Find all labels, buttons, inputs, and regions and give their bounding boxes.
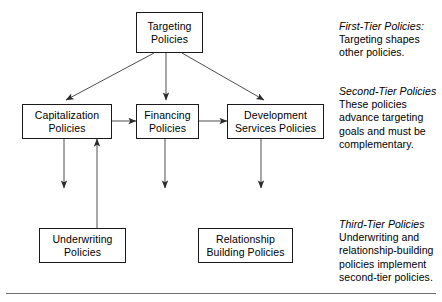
node-underwriting-policies[interactable]: Underwriting Policies: [39, 228, 126, 263]
note-second-tier-heading: Second-Tier Policies: [339, 85, 436, 98]
node-financing-policies[interactable]: Financing Policies: [136, 104, 199, 139]
note-first-tier-heading-text: First-Tier Policies: [339, 20, 421, 32]
node-capitalization-policies-line2: Policies: [49, 122, 86, 135]
note-third-tier-line2: relationship-building: [339, 244, 433, 257]
note-second-tier-line3: goals and must be: [339, 125, 436, 138]
node-development-services-policies-line1: Development: [244, 109, 307, 122]
note-third-tier-line3: policies implement: [339, 258, 433, 271]
note-second-tier-line1: These policies: [339, 98, 436, 111]
node-underwriting-policies-line1: Underwriting: [52, 233, 112, 246]
note-third-tier: Third-Tier Policies Underwriting and rel…: [339, 218, 433, 284]
note-first-tier: First-Tier Policies: Targeting shapes ot…: [339, 20, 424, 60]
edge-targeting-to-development-services: [182, 53, 264, 100]
note-third-tier-line4: second-tier policies.: [339, 271, 433, 284]
note-first-tier-heading: First-Tier Policies:: [339, 20, 424, 33]
node-relationship-building-policies[interactable]: Relationship Building Policies: [198, 228, 293, 263]
footer-divider: [6, 293, 436, 294]
node-targeting-policies[interactable]: Targeting Policies: [136, 12, 203, 53]
node-capitalization-policies-line1: Capitalization: [35, 109, 99, 122]
edge-targeting-to-capitalization: [66, 53, 154, 100]
diagram-canvas: Targeting Policies Capitalization Polici…: [0, 0, 442, 302]
note-third-tier-heading: Third-Tier Policies: [339, 218, 433, 231]
node-underwriting-policies-line2: Policies: [64, 246, 101, 259]
node-targeting-policies-line2: Policies: [151, 33, 188, 46]
note-first-tier-line2: other policies.: [339, 46, 424, 59]
node-financing-policies-line1: Financing: [144, 109, 190, 122]
note-first-tier-line1: Targeting shapes: [339, 33, 424, 46]
note-first-tier-heading-suffix: :: [421, 20, 424, 32]
note-third-tier-line1: Underwriting and: [339, 231, 433, 244]
node-targeting-policies-line1: Targeting: [147, 20, 191, 33]
node-relationship-building-policies-line2: Building Policies: [206, 246, 284, 259]
node-development-services-policies-line2: Services Policies: [235, 122, 316, 135]
note-second-tier-line4: complementary.: [339, 138, 436, 151]
node-relationship-building-policies-line1: Relationship: [216, 233, 275, 246]
note-second-tier-line2: advance targeting: [339, 111, 436, 124]
note-second-tier: Second-Tier Policies These policies adva…: [339, 85, 436, 151]
node-development-services-policies[interactable]: Development Services Policies: [227, 104, 324, 139]
node-financing-policies-line2: Policies: [149, 122, 186, 135]
node-capitalization-policies[interactable]: Capitalization Policies: [22, 104, 112, 139]
